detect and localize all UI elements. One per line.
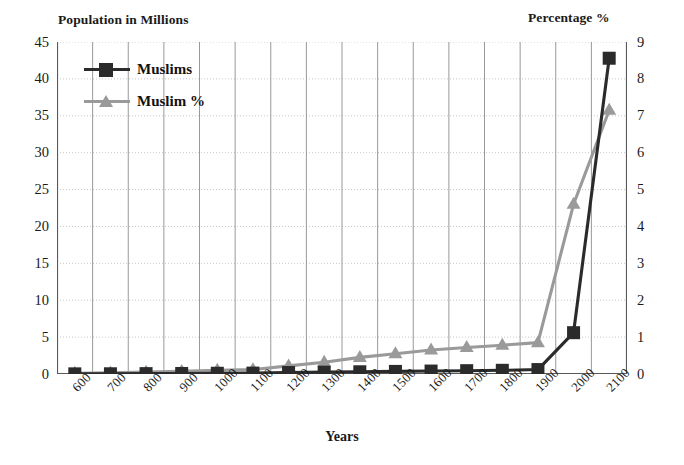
right-axis-tick-label: 2 <box>637 293 671 308</box>
legend-label-muslims: Muslims <box>137 61 192 78</box>
legend-item-muslim-percent: Muslim % <box>84 88 205 114</box>
right-axis-tick-label: 1 <box>637 330 671 345</box>
left-axis-title: Population in Millions <box>58 12 188 28</box>
left-axis-tick-label: 35 <box>15 108 49 123</box>
left-axis-tick-label: 20 <box>15 219 49 234</box>
right-axis-tick-label: 3 <box>637 256 671 271</box>
chart-container: Population in Millions Percentage % 0510… <box>0 0 684 465</box>
left-axis-tick-label: 45 <box>15 35 49 50</box>
right-axis-tick-label: 0 <box>637 367 671 382</box>
square-marker-icon <box>99 63 113 77</box>
x-axis-title: Years <box>0 429 684 445</box>
right-axis-title: Percentage % <box>528 10 610 26</box>
right-axis-tick-label: 5 <box>637 182 671 197</box>
right-axis-tick-label: 4 <box>637 219 671 234</box>
left-axis-tick-label: 40 <box>15 71 49 86</box>
left-axis-tick-label: 30 <box>15 145 49 160</box>
left-axis-tick-label: 5 <box>15 330 49 345</box>
right-axis-tick-label: 8 <box>637 71 671 86</box>
chart-legend: Muslims Muslim % <box>84 56 205 120</box>
legend-swatch-muslims <box>84 60 130 78</box>
right-axis-tick-label: 6 <box>637 145 671 160</box>
legend-item-muslims: Muslims <box>84 56 205 82</box>
left-axis-tick-label: 10 <box>15 293 49 308</box>
triangle-marker-icon <box>99 95 113 107</box>
legend-swatch-muslim-percent <box>84 92 130 110</box>
right-axis-tick-label: 7 <box>637 108 671 123</box>
left-axis-tick-label: 0 <box>15 367 49 382</box>
left-axis-tick-label: 25 <box>15 182 49 197</box>
left-axis-tick-label: 15 <box>15 256 49 271</box>
legend-label-muslim-percent: Muslim % <box>137 93 205 110</box>
right-axis-tick-label: 9 <box>637 35 671 50</box>
